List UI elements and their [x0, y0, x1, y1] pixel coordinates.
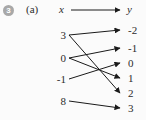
- question-number-badge: 3: [3, 5, 14, 16]
- right-value-2: 2: [128, 86, 134, 100]
- arrow-0-to--1: [69, 48, 120, 58]
- arrow--1-to-0: [69, 63, 120, 79]
- codomain-label: y: [127, 3, 132, 15]
- arrow-3-to-2: [69, 35, 120, 93]
- arrow-8-to-3: [69, 101, 120, 108]
- left-value-0: 0: [44, 51, 66, 65]
- arrow-0-to-1: [69, 58, 120, 78]
- part-label: (a): [26, 3, 38, 15]
- question-number: 3: [6, 6, 10, 15]
- right-value-3: 3: [128, 101, 134, 115]
- right-value-1: 1: [128, 71, 134, 85]
- mapping-arrows: [0, 0, 146, 120]
- figure-mapping-diagram: 3 (a) x y 3 0 -1 8 -2 -1 0 1 2 3: [0, 0, 146, 120]
- right-value-neg1: -1: [128, 41, 137, 55]
- right-value-0: 0: [128, 56, 134, 70]
- domain-label: x: [59, 3, 64, 15]
- arrow-3-to--2: [69, 30, 120, 35]
- right-value-neg2: -2: [128, 23, 137, 37]
- left-value-neg1: -1: [44, 72, 66, 86]
- left-value-3: 3: [44, 28, 66, 42]
- left-value-8: 8: [44, 94, 66, 108]
